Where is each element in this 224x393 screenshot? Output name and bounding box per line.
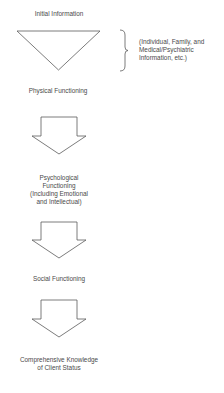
stage-label-social-functioning: Social Functioning [9, 275, 109, 283]
stage-label-comprehensive-knowledge: Comprehensive Knowledge of Client Status [4, 356, 114, 372]
down-arrow-icon [32, 117, 86, 154]
stage-label-psychological-functioning: Psychological Functioning (Including Emo… [9, 174, 109, 206]
bracket-note: (Individual, Family, and Medical/Psychia… [139, 38, 204, 62]
flow-diagram: Initial Information (Individual, Family,… [0, 0, 224, 393]
down-arrow-icon [32, 300, 86, 337]
stage-label-line: Functioning [9, 182, 109, 190]
stage-label-line: of Client Status [4, 364, 114, 372]
bracket-note-line: Information, etc.) [139, 54, 204, 62]
curly-brace-icon [120, 30, 128, 71]
bracket-note-line: (Individual, Family, and [139, 38, 204, 46]
stage-label-physical-functioning: Physical Functioning [8, 87, 108, 95]
stage-label-initial-information: Initial Information [9, 10, 109, 18]
down-arrow-icon [32, 222, 86, 258]
funnel-triangle-icon [17, 31, 100, 70]
stage-label-line: and Intellectual) [9, 198, 109, 206]
bracket-note-line: Medical/Psychiatric [139, 46, 204, 54]
stage-label-line: Psychological [9, 174, 109, 182]
stage-label-line: (Including Emotional [9, 190, 109, 198]
stage-label-line: Comprehensive Knowledge [4, 356, 114, 364]
